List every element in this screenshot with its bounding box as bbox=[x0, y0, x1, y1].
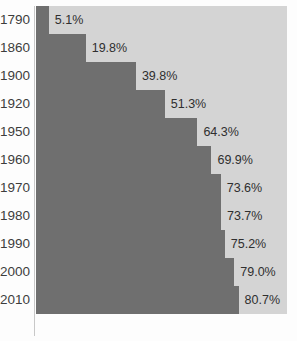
bar-fill[interactable] bbox=[36, 202, 221, 230]
bar-fill[interactable] bbox=[36, 146, 211, 174]
bar-value-label: 51.3% bbox=[171, 98, 206, 111]
category-label: 1990 bbox=[0, 237, 34, 251]
category-label: 1970 bbox=[0, 181, 34, 195]
chart-row: 1860 19.8% bbox=[0, 34, 292, 62]
bar-track: 69.9% bbox=[36, 146, 287, 174]
bar-fill[interactable] bbox=[36, 174, 221, 202]
category-label: 1860 bbox=[0, 41, 34, 55]
chart-row: 1970 73.6% bbox=[0, 174, 292, 202]
bar-track: 19.8% bbox=[36, 34, 287, 62]
bar-track: 51.3% bbox=[36, 90, 287, 118]
bar-track: 80.7% bbox=[36, 286, 287, 314]
bar-fill[interactable] bbox=[36, 118, 197, 146]
category-label: 2000 bbox=[0, 265, 34, 279]
y-axis-line bbox=[34, 6, 35, 336]
bar-value-label: 75.2% bbox=[231, 238, 266, 251]
bar-track: 73.6% bbox=[36, 174, 287, 202]
category-label: 1960 bbox=[0, 153, 34, 167]
bar-track: 75.2% bbox=[36, 230, 287, 258]
bar-fill[interactable] bbox=[36, 34, 86, 62]
bar-fill[interactable] bbox=[36, 62, 136, 90]
bar-track: 39.8% bbox=[36, 62, 287, 90]
bar-fill[interactable] bbox=[36, 90, 165, 118]
bar-value-label: 79.0% bbox=[240, 266, 275, 279]
category-label: 1980 bbox=[0, 209, 34, 223]
bar-track: 64.3% bbox=[36, 118, 287, 146]
bar-value-label: 69.9% bbox=[217, 154, 252, 167]
bar-value-label: 5.1% bbox=[55, 14, 84, 27]
bar-fill[interactable] bbox=[36, 286, 239, 314]
bar-value-label: 19.8% bbox=[92, 42, 127, 55]
category-label: 1900 bbox=[0, 69, 34, 83]
bar-value-label: 73.6% bbox=[227, 182, 262, 195]
chart-row: 1960 69.9% bbox=[0, 146, 292, 174]
bar-fill[interactable] bbox=[36, 230, 225, 258]
chart-row: 1790 5.1% bbox=[0, 6, 292, 34]
bar-value-label: 80.7% bbox=[245, 294, 280, 307]
category-label: 1920 bbox=[0, 97, 34, 111]
bar-value-label: 73.7% bbox=[227, 210, 262, 223]
chart-row: 1980 73.7% bbox=[0, 202, 292, 230]
category-label: 1950 bbox=[0, 125, 34, 139]
category-label: 2010 bbox=[0, 293, 34, 307]
bar-fill[interactable] bbox=[36, 258, 234, 286]
chart-row: 1990 75.2% bbox=[0, 230, 292, 258]
bar-value-label: 39.8% bbox=[142, 70, 177, 83]
bar-fill[interactable] bbox=[36, 6, 49, 34]
horizontal-bar-chart: 1790 5.1% 1860 19.8% 1900 39.8% 1920 51.… bbox=[0, 0, 297, 341]
category-label: 1790 bbox=[0, 13, 34, 27]
chart-row: 1950 64.3% bbox=[0, 118, 292, 146]
bar-track: 73.7% bbox=[36, 202, 287, 230]
bar-track: 5.1% bbox=[36, 6, 287, 34]
chart-row: 2010 80.7% bbox=[0, 286, 292, 314]
bar-value-label: 64.3% bbox=[203, 126, 238, 139]
chart-row: 1920 51.3% bbox=[0, 90, 292, 118]
chart-row: 2000 79.0% bbox=[0, 258, 292, 286]
chart-row: 1900 39.8% bbox=[0, 62, 292, 90]
bar-track: 79.0% bbox=[36, 258, 287, 286]
